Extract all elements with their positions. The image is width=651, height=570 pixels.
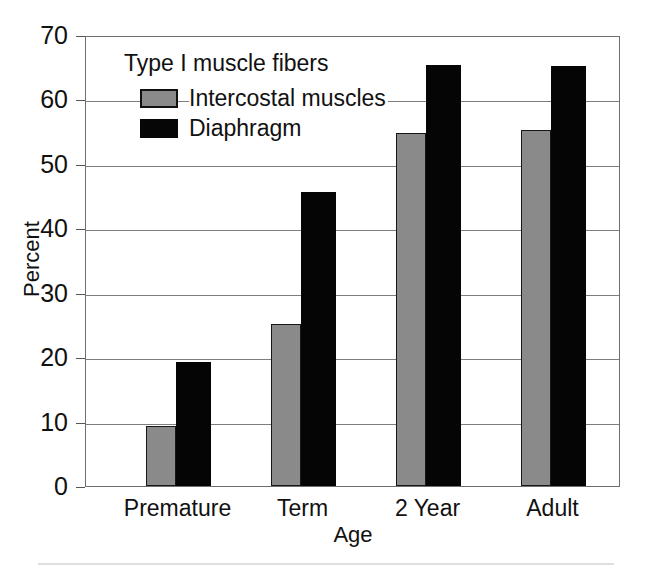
y-axis-tick [76, 358, 85, 359]
y-axis-title: Percent [19, 189, 45, 329]
x-axis-tick-label: Adult [463, 495, 643, 522]
x-axis-title: Age [285, 522, 421, 548]
legend-title: Type I muscle fibers [124, 50, 448, 77]
legend: Type I muscle fibers Intercostal muscles… [118, 50, 448, 143]
y-axis-tick-label: 40 [8, 216, 68, 241]
y-axis-tick [76, 36, 85, 37]
y-axis-tick-label: 60 [8, 87, 68, 112]
y-axis-tick [76, 487, 85, 488]
bar [551, 66, 586, 486]
legend-label: Intercostal muscles [189, 85, 388, 112]
y-axis-tick-label: 20 [8, 345, 68, 370]
y-axis-tick-label: 70 [8, 23, 68, 48]
legend-swatch [140, 119, 178, 138]
y-axis-tick [76, 165, 85, 166]
y-axis-tick [76, 423, 85, 424]
bar [396, 133, 426, 486]
bar [521, 130, 551, 486]
bar [146, 426, 176, 486]
y-axis-tick-label: 0 [8, 474, 68, 499]
scan-artifact-line [38, 563, 614, 565]
y-axis-tick [76, 229, 85, 230]
legend-swatch [140, 89, 178, 108]
y-axis-tick-label: 30 [8, 281, 68, 306]
y-axis-tick [76, 100, 85, 101]
bar-chart-figure: Percent 010203040506070 PrematureTerm2 Y… [0, 0, 651, 570]
bar [176, 362, 211, 486]
y-axis-tick-label: 10 [8, 410, 68, 435]
legend-entry: Intercostal muscles [140, 83, 448, 113]
legend-label: Diaphragm [189, 115, 304, 142]
bar [301, 192, 336, 486]
y-axis-tick-label: 50 [8, 152, 68, 177]
legend-entries: Intercostal musclesDiaphragm [118, 83, 448, 143]
legend-entry: Diaphragm [140, 113, 448, 143]
y-axis-tick [76, 294, 85, 295]
bar [271, 324, 301, 486]
